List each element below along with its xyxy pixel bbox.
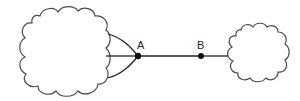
node-b	[198, 53, 204, 59]
network-diagram: A B	[0, 0, 300, 101]
cloud-right	[228, 23, 290, 82]
edge-cloud-left-bottom-to-a	[108, 56, 138, 78]
node-a-label: A	[137, 39, 145, 51]
node-a	[135, 53, 141, 59]
node-b-label: B	[197, 39, 204, 51]
edge-cloud-left-top-to-a	[108, 34, 138, 56]
cloud-left	[20, 7, 110, 97]
